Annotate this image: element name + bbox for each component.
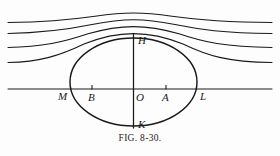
point-label-l: L [199,90,206,102]
figure-caption: FIG. 8-30. [0,133,280,143]
point-label-b: B [88,91,95,103]
point-label-a: A [161,91,169,103]
point-label-k: K [137,118,146,130]
point-label-h: H [137,34,147,46]
figure-container: H K M B O A L FIG. 8-30. [0,0,280,156]
point-label-o: O [136,91,144,103]
point-label-m: M [57,90,68,102]
streamline-1 [8,13,272,23]
